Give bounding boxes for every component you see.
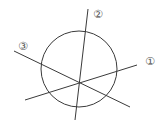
circle-lines-diagram: ① ② ③	[0, 0, 163, 129]
label-line-1: ①	[145, 55, 155, 68]
label-line-3: ③	[18, 40, 28, 53]
line-2	[75, 9, 88, 120]
line-3	[14, 51, 130, 107]
label-line-2: ②	[93, 8, 103, 21]
